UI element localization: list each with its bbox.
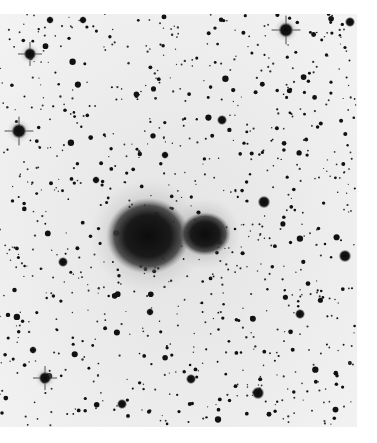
bright-star [24,48,37,61]
star [103,326,107,330]
star [191,59,193,61]
star [276,328,278,330]
star [98,287,100,289]
bright-star [29,346,37,354]
star [264,215,265,216]
star [44,223,46,225]
star [339,29,341,31]
star [275,14,279,17]
star [330,423,331,424]
star [86,114,90,118]
star [303,235,305,237]
star [237,384,239,386]
star [257,44,259,46]
star [217,328,220,331]
bright-star [11,123,27,139]
star [43,97,44,98]
star [338,302,339,303]
star [242,327,244,329]
star [218,158,219,159]
star [181,64,183,66]
star [353,244,354,245]
star [147,143,148,144]
star-field-photo [0,14,357,427]
star [1,82,3,84]
star [6,149,8,151]
star [40,109,42,111]
star [121,99,122,100]
star [316,280,317,281]
star [148,409,151,412]
star [70,113,72,115]
star [311,125,313,127]
star [210,293,212,295]
star [272,186,274,188]
star [169,372,170,373]
star [176,313,177,314]
star [18,196,20,198]
star [9,38,11,40]
star [250,158,252,160]
star [253,349,254,350]
star [351,287,353,289]
star [242,307,243,308]
star [350,401,351,402]
star [241,31,245,35]
star [90,266,92,268]
star [244,14,247,17]
star [226,394,228,396]
star [267,170,269,172]
galaxy [106,198,190,274]
star [323,401,325,403]
star [182,370,186,374]
star [204,173,206,175]
star [301,224,302,225]
star [12,246,13,247]
star [269,237,271,239]
star [15,266,17,268]
star [229,69,231,71]
star [115,99,117,101]
star [271,127,273,129]
star [195,57,198,60]
star [69,59,75,65]
star [238,152,242,156]
star [195,184,196,185]
star [54,189,55,190]
star [96,321,98,323]
star [275,89,279,93]
star [205,416,207,418]
star [75,82,81,88]
star [350,96,352,98]
star [254,345,256,347]
star [172,90,174,92]
star [245,412,249,416]
star [55,318,57,320]
star [219,17,224,22]
star [178,305,179,306]
star [169,343,171,345]
star [296,164,298,166]
star [326,343,328,345]
star [64,281,66,283]
star [270,245,272,247]
star [224,373,227,376]
star [287,88,292,93]
star [293,209,296,212]
star [241,96,242,97]
star [95,30,98,33]
star [36,220,38,222]
star [314,380,318,384]
star [108,156,109,157]
star [101,180,104,183]
star [155,77,156,78]
star [271,265,275,269]
star [49,118,51,120]
star [276,374,277,375]
star [249,130,251,132]
star [337,350,338,351]
star [259,234,261,236]
star [66,232,67,233]
star [72,351,78,357]
star [105,201,108,204]
